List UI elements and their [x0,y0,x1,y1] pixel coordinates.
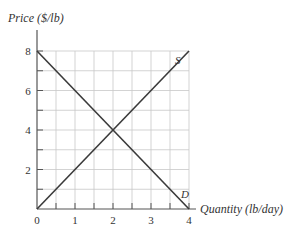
demand-label: D [180,188,189,200]
y-tick-label: 6 [25,85,31,97]
x-tick-label: 3 [148,214,154,226]
supply-demand-chart: Price ($/lb) Quantity (lb/day) 012342468… [0,0,301,232]
x-tick-label: 4 [186,214,192,226]
y-tick-label: 2 [25,164,31,176]
x-tick-label: 1 [72,214,78,226]
y-tick-label: 4 [25,124,31,136]
x-tick-label: 2 [110,214,116,226]
supply-label: S [175,54,181,66]
axis-labels: Price ($/lb) Quantity (lb/day) 012342468… [7,11,283,226]
y-axis-title: Price ($/lb) [7,11,64,25]
x-axis-title: Quantity (lb/day) [200,202,283,216]
axes [37,30,196,209]
y-tick-label: 8 [25,45,31,57]
x-tick-label: 0 [34,214,40,226]
